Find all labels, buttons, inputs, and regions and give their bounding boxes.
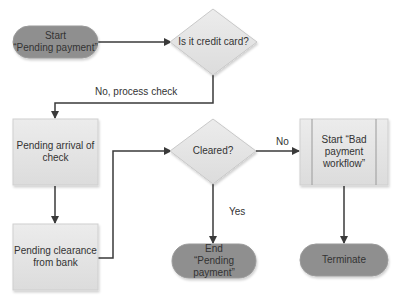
- edge-label-yes: Yes: [229, 206, 245, 217]
- decision-credit-card-label: Is it credit card?: [178, 36, 249, 48]
- edge-label-no: No: [276, 136, 289, 147]
- pending-clearance-line2: from bank: [33, 257, 77, 269]
- bad-payment-line2: payment: [325, 146, 363, 158]
- decision-cleared: Cleared?: [170, 140, 256, 162]
- terminate-node: Terminate: [300, 244, 388, 276]
- edge-label-no-process-check: No, process check: [95, 86, 177, 97]
- bad-payment-line3: workflow”: [323, 158, 365, 170]
- decision-credit-card: Is it credit card?: [170, 30, 257, 54]
- bad-payment-line1: Start “Bad: [321, 134, 366, 146]
- end-label-line1: End: [205, 243, 223, 255]
- start-label-line1: Start: [45, 30, 66, 42]
- start-node: Start “Pending payment”: [13, 26, 98, 58]
- edge-box2-to-q2: [98, 151, 171, 258]
- start-label-line2: “Pending payment”: [13, 42, 98, 54]
- predefined-bad-payment: Start “Bad payment workflow”: [312, 119, 376, 185]
- terminate-label: Terminate: [322, 254, 366, 266]
- pending-clearance-line1: Pending clearance: [14, 245, 97, 257]
- process-pending-clearance: Pending clearance from bank: [13, 224, 98, 290]
- process-pending-arrival: Pending arrival of check: [13, 119, 98, 185]
- end-node: End “Pending payment”: [172, 244, 256, 278]
- end-label-line2: “Pending payment”: [172, 255, 256, 279]
- pending-arrival-line1: Pending arrival of: [17, 140, 95, 152]
- pending-arrival-line2: check: [42, 152, 68, 164]
- decision-cleared-label: Cleared?: [193, 145, 234, 157]
